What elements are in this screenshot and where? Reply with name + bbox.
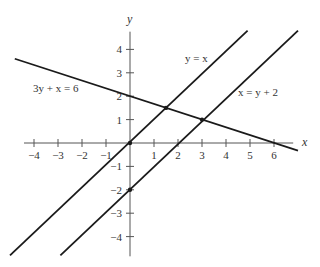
equation-label-3y-plus-x-eq-6: 3y + x = 6 [33,82,79,94]
x-tick-label: −3 [52,149,64,161]
x-tick-label: 5 [247,149,253,161]
y-tick-label: −2 [110,184,122,196]
x-tick-label: −1 [100,149,112,161]
y-tick-label: −3 [110,207,122,219]
equation-label-x-eq-y-plus-2: x = y + 2 [238,86,278,98]
intersection-points [128,106,204,192]
point-marker [128,141,132,145]
y-axis-label: y [126,12,133,26]
x-tick-label: 4 [223,149,229,161]
linear-equations-graph: −4−3−2−11234564321−1−2−3−4 x y 3y + x = … [0,0,320,267]
axes [24,32,293,257]
x-tick-label: 6 [271,149,277,161]
y-tick-label: −1 [110,160,122,172]
x-tick-label: 1 [151,149,157,161]
y-tick-label: 1 [117,114,123,126]
equation-label-y-eq-x: y = x [185,52,208,64]
x-tick-label: 2 [175,149,181,161]
x-tick-label: 3 [199,149,205,161]
y-tick-label: 3 [117,67,123,79]
x-tick-label: −4 [28,149,40,161]
line-3y-x-6 [15,59,298,151]
x-tick-label: −2 [76,149,88,161]
point-marker [200,117,204,121]
point-marker [128,188,132,192]
x-axis-label: x [301,135,308,149]
y-tick-label: 4 [117,43,123,55]
y-tick-label: −4 [110,231,122,243]
point-marker [164,106,168,110]
